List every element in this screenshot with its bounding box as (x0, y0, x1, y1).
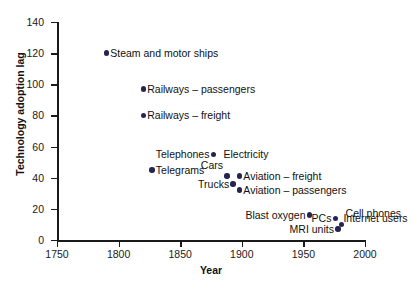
technology-adoption-lag-chart: 020406080100120140 175018001850190019502… (0, 0, 412, 285)
x-axis-line (57, 240, 365, 242)
data-label-aviation-freight: Aviation – freight (243, 171, 321, 182)
x-tick-1950 (303, 240, 304, 247)
y-tick-label-0: 0 (0, 235, 44, 245)
data-point-telephones (211, 152, 216, 157)
data-label-aviation-passengers: Aviation – passengers (243, 185, 346, 196)
data-label-blast-oxygen: Blast oxygen (245, 210, 305, 221)
y-axis-title: Technology adoption lag (14, 24, 26, 204)
y-tick-140 (51, 22, 58, 23)
x-axis-title: Year (57, 264, 365, 276)
data-point-aviation-passengers (237, 187, 242, 192)
data-point-railways-passengers (141, 86, 146, 91)
x-tick-label-1950: 1950 (278, 249, 328, 260)
y-tick-20 (51, 209, 58, 210)
x-tick-label-1850: 1850 (155, 249, 205, 260)
x-tick-label-1900: 1900 (217, 249, 267, 260)
data-point-steam-and-motor-ships (104, 50, 109, 55)
data-label-cars: Cars (201, 160, 223, 171)
x-tick-1900 (242, 240, 243, 247)
data-label-trucks: Trucks (198, 178, 229, 189)
data-point-mri-units (335, 226, 340, 231)
y-tick-100 (51, 84, 58, 85)
x-tick-label-2000: 2000 (340, 249, 390, 260)
data-label-mri-units: MRI units (290, 224, 334, 235)
data-label-telegrams: Telegrams (156, 164, 204, 175)
data-point-trucks (230, 181, 235, 186)
data-point-pcs (333, 216, 338, 221)
y-axis-line (57, 22, 59, 240)
y-tick-label-20: 20 (0, 204, 44, 214)
data-label-railways-passengers: Railways – passengers (147, 83, 255, 94)
y-tick-60 (51, 147, 58, 148)
x-tick-2000 (365, 240, 366, 247)
data-label-internet-users: Internet users (343, 213, 407, 224)
x-tick-label-1750: 1750 (32, 249, 82, 260)
data-point-aviation-freight (237, 173, 242, 178)
data-label-steam-and-motor-ships: Steam and motor ships (110, 48, 218, 59)
x-tick-1750 (57, 240, 58, 247)
y-tick-120 (51, 53, 58, 54)
x-tick-label-1800: 1800 (94, 249, 144, 260)
x-tick-1850 (180, 240, 181, 247)
x-tick-1800 (119, 240, 120, 247)
data-point-railways-freight (141, 113, 146, 118)
y-tick-80 (51, 115, 58, 116)
data-label-railways-freight: Railways – freight (147, 110, 230, 121)
data-label-electricity: Electricity (223, 149, 268, 160)
data-point-telegrams (149, 167, 154, 172)
y-tick-40 (51, 178, 58, 179)
